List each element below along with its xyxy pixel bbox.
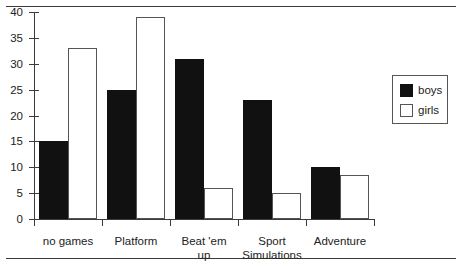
y-tick-label: 35 — [10, 31, 23, 46]
category-label-line: Adventure — [306, 234, 374, 248]
category-label-3: SportSimulations — [238, 234, 306, 262]
plot-area: 0510152025303540 no gamesPlatformBeat 'e… — [34, 12, 374, 219]
y-tick: 10 — [29, 167, 39, 168]
bar-girls-4 — [340, 175, 369, 219]
y-tick: 20 — [29, 116, 39, 117]
category-label-4: Adventure — [306, 234, 374, 248]
bar-boys-4 — [311, 167, 340, 219]
bar-boys-2 — [175, 59, 204, 219]
y-tick-label: 15 — [10, 134, 23, 149]
y-tick-label: 20 — [10, 109, 23, 124]
legend-label-boys: boys — [418, 84, 442, 97]
bar-girls-0 — [68, 48, 97, 219]
x-tick — [374, 219, 375, 226]
y-tick-label: 10 — [10, 160, 23, 175]
y-tick: 40 — [29, 12, 39, 13]
bar-boys-3 — [243, 100, 272, 219]
bar-girls-3 — [272, 193, 301, 219]
legend-swatch-boys — [400, 84, 413, 97]
x-tick — [170, 219, 171, 226]
y-tick-label: 0 — [17, 212, 23, 227]
y-tick: 25 — [29, 90, 39, 91]
y-tick-label: 25 — [10, 83, 23, 98]
bar-boys-1 — [107, 90, 136, 219]
bar-girls-1 — [136, 17, 165, 219]
y-tick-label: 30 — [10, 57, 23, 72]
category-label-line: Sport — [238, 234, 306, 248]
category-label-line: up — [170, 248, 238, 262]
category-label-0: no games — [34, 234, 102, 248]
category-label-line: Platform — [102, 234, 170, 248]
y-tick: 15 — [29, 141, 39, 142]
x-tick — [306, 219, 307, 226]
category-label-line: no games — [34, 234, 102, 248]
legend-item-boys: boys — [400, 84, 442, 97]
y-tick: 30 — [29, 64, 39, 65]
bar-girls-2 — [204, 188, 233, 219]
legend-label-girls: girls — [418, 104, 439, 117]
y-tick-label: 5 — [17, 186, 23, 201]
bar-chart-figure: 0510152025303540 no gamesPlatformBeat 'e… — [0, 0, 462, 267]
x-tick — [34, 219, 35, 226]
y-tick: 5 — [29, 193, 39, 194]
category-label-line: Simulations — [238, 248, 306, 262]
x-axis-line — [34, 219, 374, 220]
x-tick — [238, 219, 239, 226]
category-label-1: Platform — [102, 234, 170, 248]
x-tick — [102, 219, 103, 226]
y-tick-label: 40 — [10, 5, 23, 20]
legend-item-girls: girls — [400, 104, 439, 117]
category-label-line: Beat 'em — [170, 234, 238, 248]
top-divider-rule — [6, 6, 456, 7]
legend: boys girls — [392, 75, 448, 124]
bar-boys-0 — [39, 141, 68, 219]
category-label-2: Beat 'emup — [170, 234, 238, 262]
y-tick: 35 — [29, 38, 39, 39]
legend-swatch-girls — [400, 104, 413, 117]
